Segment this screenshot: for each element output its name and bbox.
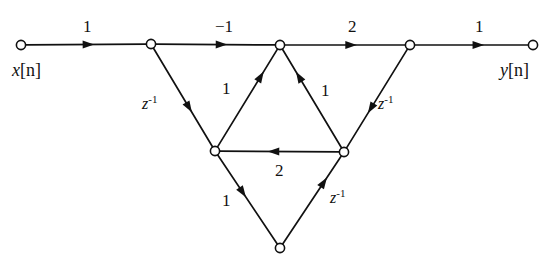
branch-node2-to-node6-gain-label: z-1: [142, 96, 157, 112]
nodes-layer: [16, 39, 537, 252]
branch-node4-to-node7: [346, 49, 407, 148]
signal-flow-graph-figure: 1−121z-111z-121z-1 x[n] y[n]: [0, 0, 553, 260]
branch-node7-to-node3-arrowhead-icon: [296, 72, 305, 84]
branch-node2-to-node6: [153, 48, 212, 147]
flow-graph-canvas: [0, 0, 553, 260]
branch-node7-to-node6: [220, 151, 340, 152]
edges-layer: [26, 44, 529, 244]
branch-node7-to-node6-arrowhead-icon: [268, 147, 280, 155]
branch-node8-to-node7-gain-label: z-1: [330, 190, 345, 206]
branch-node6-to-node8-arrowhead-icon: [236, 185, 246, 197]
input-node: [16, 40, 25, 49]
branch-input-to-node2-gain-label: 1: [83, 18, 92, 35]
branch-node2-to-node3: [156, 44, 276, 45]
branch-node2-to-node3-arrowhead-icon: [216, 41, 228, 49]
branch-node7-to-node3: [282, 49, 341, 148]
node-3-top-center: [275, 40, 284, 49]
node-4: [405, 40, 414, 49]
branch-node6-to-node3-gain-label: 1: [222, 80, 231, 97]
node-2: [146, 39, 155, 48]
branch-node8-to-node7-arrowhead-icon: [317, 178, 327, 190]
branch-node2-to-node3-gain-label: −1: [215, 18, 233, 35]
node-8-bottom: [275, 243, 284, 252]
output-node: [528, 40, 537, 49]
branch-node4-to-node7-arrowhead-icon: [368, 101, 377, 113]
node-6-left-lower: [210, 146, 219, 155]
branch-node4-to-node7-gain-label: z-1: [378, 96, 393, 112]
branch-node6-to-node8-gain-label: 1: [222, 192, 231, 209]
output-signal-label: y[n]: [500, 61, 529, 79]
node-7-right-lower: [339, 147, 348, 156]
input-signal-label: x[n]: [12, 61, 41, 79]
branch-node7-to-node3-gain-label: 1: [321, 82, 330, 99]
branch-node4-to-output-arrowhead-icon: [473, 41, 485, 49]
branch-node3-to-node4-arrowhead-icon: [345, 41, 357, 49]
branch-node2-to-node6-arrowhead-icon: [183, 100, 192, 112]
branch-input-to-node2-arrowhead-icon: [83, 41, 95, 49]
branch-node6-to-node3: [217, 49, 277, 147]
branch-node6-to-node3-arrowhead-icon: [254, 72, 263, 84]
branch-node7-to-node6-gain-label: 2: [275, 162, 284, 179]
branch-node3-to-node4-gain-label: 2: [348, 18, 357, 35]
branch-node4-to-output-gain-label: 1: [475, 18, 484, 35]
